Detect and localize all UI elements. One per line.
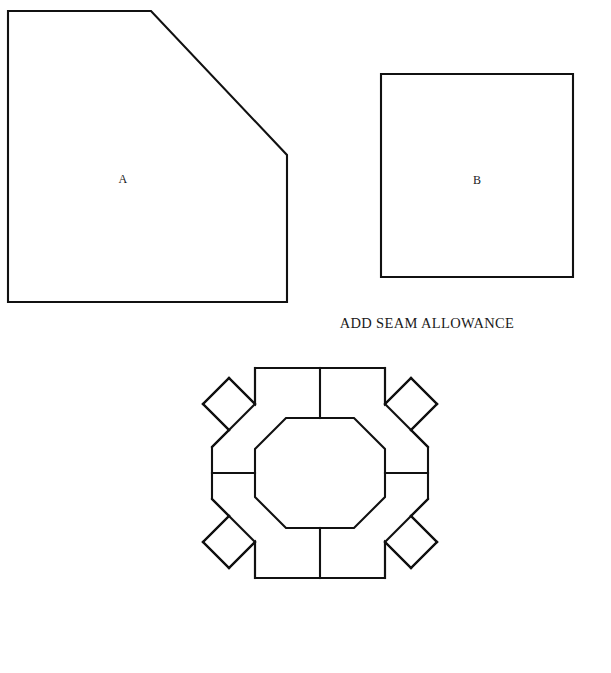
seam-allowance-caption: ADD SEAM ALLOWANCE (340, 315, 515, 331)
template-piece-a-label: A (119, 172, 128, 186)
assembly-diagram (203, 368, 437, 578)
template-piece-a (8, 11, 287, 302)
pattern-diagram-canvas: A B ADD SEAM ALLOWANCE (0, 0, 611, 673)
pattern-sheet: A B ADD SEAM ALLOWANCE (0, 0, 611, 673)
template-piece-b-label: B (473, 173, 481, 187)
assembly-center-octagon (255, 418, 385, 528)
